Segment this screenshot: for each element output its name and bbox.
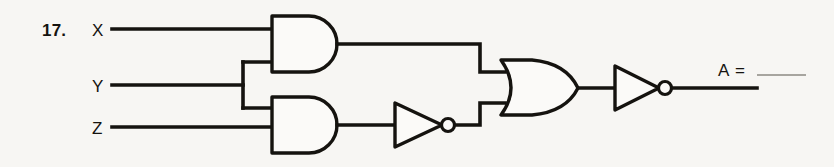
label-layer: 17. X Y Z A = xyxy=(0,0,834,167)
input-label-y: Y xyxy=(92,77,103,96)
output-label: A = xyxy=(718,61,746,80)
logic-circuit-diagram: 17. X Y Z A = xyxy=(0,0,834,167)
problem-number: 17. xyxy=(42,21,66,40)
input-label-z: Z xyxy=(92,119,102,138)
input-label-x: X xyxy=(92,21,103,40)
